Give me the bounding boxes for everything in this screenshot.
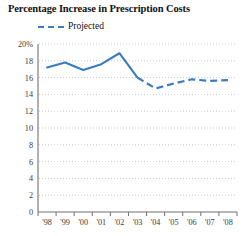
x-axis-tick-label: '00 [78, 218, 88, 227]
y-axis-tick-label: 6 [29, 158, 33, 167]
x-axis-tick-label: '99 [60, 218, 70, 227]
x-axis-tick-label: '05 [169, 218, 179, 227]
y-axis-tick-label: 12 [25, 107, 33, 116]
y-axis-tick-label: 16 [25, 74, 33, 83]
x-axis-tick-label: '02 [115, 218, 125, 227]
series-line-actual [47, 53, 137, 77]
series-line-projected [138, 78, 228, 89]
x-axis-tick-label: '07 [205, 218, 215, 227]
x-axis-tick-labels: '98'99'00'01'02'03'04'05'06'07'08 [42, 218, 233, 227]
x-axis-tick-label: '06 [187, 218, 197, 227]
chart-svg: 02468101214161820% '98'99'00'01'02'03'04… [0, 0, 245, 236]
y-axis-tick-label: 4 [29, 174, 33, 183]
y-axis-tick-label: 18 [25, 57, 33, 66]
y-axis-tick-label: 2 [29, 191, 33, 200]
x-axis-tick-label: '08 [223, 218, 233, 227]
x-axis-tick-marks [38, 212, 237, 216]
plot-area: 02468101214161820% '98'99'00'01'02'03'04… [0, 0, 245, 236]
y-axis-tick-label: 20% [18, 40, 33, 49]
y-axis-tick-label: 10 [25, 124, 33, 133]
y-axis-tick-label: 8 [29, 141, 33, 150]
y-axis-tick-label: 14 [25, 90, 33, 99]
x-axis-tick-label: '03 [133, 218, 143, 227]
x-axis-tick-label: '01 [96, 218, 106, 227]
gridlines-group [39, 44, 237, 195]
x-axis-tick-label: '04 [151, 218, 161, 227]
chart-container: Percentage Increase in Prescription Cost… [0, 0, 245, 236]
y-axis-tick-labels: 02468101214161820% [18, 40, 33, 217]
x-axis-tick-label: '98 [42, 218, 52, 227]
y-axis-tick-label: 0 [29, 208, 33, 217]
